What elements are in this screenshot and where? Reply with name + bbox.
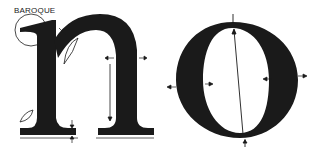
letter-n: [20, 14, 154, 135]
stress-axis-line: [232, 14, 247, 147]
letter-o: [176, 22, 298, 138]
stem-height-line: [108, 64, 112, 121]
letterform-drawing: [0, 0, 317, 149]
baroque-letterform-diagram: BAROQUE: [0, 0, 317, 149]
bracket-highlight-lower: [20, 110, 33, 122]
